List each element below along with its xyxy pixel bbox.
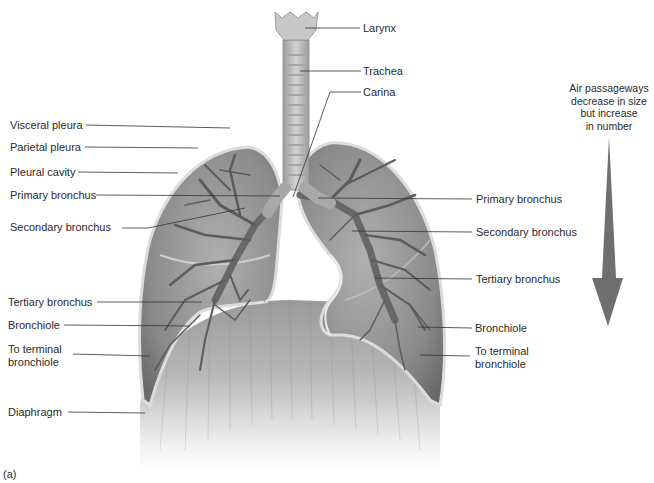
label-terminal-bronchiole-left-line1: To terminal: [8, 343, 62, 356]
label-larynx: Larynx: [363, 22, 396, 35]
arrow-note: Air passageways decrease in size but inc…: [566, 82, 652, 132]
arrow-note-line2: decrease in size: [566, 95, 652, 108]
label-secondary-bronchus-left: Secondary bronchus: [10, 221, 111, 234]
label-secondary-bronchus-right: Secondary bronchus: [476, 226, 577, 239]
label-terminal-bronchiole-left: To terminal bronchiole: [8, 343, 62, 369]
down-arrow-icon: [592, 137, 623, 326]
label-tertiary-bronchus-left: Tertiary bronchus: [8, 296, 92, 309]
label-terminal-bronchiole-right-line1: To terminal: [475, 345, 529, 358]
label-primary-bronchus-left: Primary bronchus: [10, 189, 96, 202]
lung-illustration: [0, 0, 654, 483]
label-terminal-bronchiole-right: To terminal bronchiole: [475, 345, 529, 371]
label-bronchiole-right: Bronchiole: [475, 322, 527, 335]
label-bronchiole-left: Bronchiole: [8, 319, 60, 332]
label-terminal-bronchiole-right-line2: bronchiole: [475, 358, 529, 371]
arrow-note-line3: but increase: [566, 107, 652, 120]
label-pleural-cavity: Pleural cavity: [10, 166, 75, 179]
label-carina: Carina: [363, 86, 395, 99]
arrow-note-line1: Air passageways: [566, 82, 652, 95]
label-tertiary-bronchus-right: Tertiary bronchus: [476, 273, 560, 286]
larynx-shape: [275, 12, 318, 40]
label-diaphragm: Diaphragm: [8, 406, 62, 419]
arrow-note-line4: in number: [566, 120, 652, 133]
label-trachea: Trachea: [363, 65, 403, 78]
label-parietal-pleura: Parietal pleura: [10, 141, 81, 154]
label-terminal-bronchiole-left-line2: bronchiole: [8, 356, 62, 369]
label-primary-bronchus-right: Primary bronchus: [476, 193, 562, 206]
panel-label: (a): [3, 468, 16, 481]
respiratory-tract-diagram: Larynx Trachea Carina Visceral pleura Pa…: [0, 0, 654, 483]
label-visceral-pleura: Visceral pleura: [10, 119, 83, 132]
